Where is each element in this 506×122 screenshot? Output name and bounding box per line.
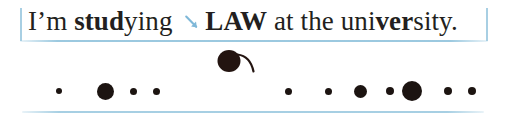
vertical-bar-icon-left xyxy=(20,8,22,41)
stress-dot xyxy=(386,87,394,95)
ink-blob-with-tail-icon xyxy=(216,48,262,74)
stress-dot xyxy=(354,85,367,98)
sentence-segment-5: at the uni xyxy=(267,6,375,36)
stress-dot xyxy=(153,88,160,95)
sentence-segment-3: ying xyxy=(124,6,179,36)
scanned-page: I’m studying LAW at the university. xyxy=(0,0,506,122)
stress-dot xyxy=(97,83,114,100)
horizontal-rule-bottom xyxy=(22,111,484,113)
stress-dot xyxy=(130,88,137,95)
stress-dot xyxy=(468,87,476,95)
sentence-segment-2-bold: stud xyxy=(74,6,124,36)
horizontal-rule-top xyxy=(20,40,488,42)
vertical-bar-icon-right xyxy=(486,8,488,41)
sentence-segment-7: sity. xyxy=(413,6,458,36)
sentence-segment-1: I’m xyxy=(28,6,74,36)
stress-dot xyxy=(285,88,292,95)
stress-dot xyxy=(325,88,332,95)
sentence-segment-4-bold: LAW xyxy=(205,6,267,36)
stress-dot xyxy=(56,88,62,94)
stress-dot xyxy=(444,87,452,95)
diagonal-arrow-down-right-icon xyxy=(183,7,203,27)
example-sentence: I’m studying LAW at the university. xyxy=(28,4,483,40)
stress-dot xyxy=(402,81,422,101)
sentence-segment-6-bold: ver xyxy=(376,6,414,36)
